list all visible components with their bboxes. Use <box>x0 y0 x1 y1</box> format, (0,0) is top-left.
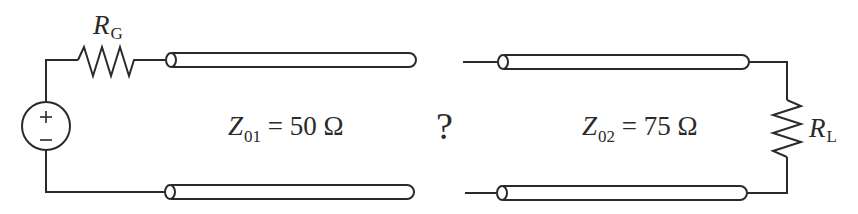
voltage-source-icon <box>22 102 70 150</box>
coax-line-1-bottom <box>165 185 414 199</box>
rl-subscript: L <box>827 127 837 146</box>
rl-symbol: R <box>809 113 826 143</box>
load-resistor-label: RL <box>809 115 837 142</box>
z02-symbol: Z <box>582 111 597 141</box>
wire-right <box>749 62 787 100</box>
rg-subscript: G <box>111 24 123 43</box>
coax-line-2-bottom <box>497 186 747 200</box>
z01-symbol: Z <box>228 111 243 141</box>
rg-symbol: R <box>93 10 110 40</box>
z01-value: 50 Ω <box>290 111 344 141</box>
wire-right-bottom <box>747 157 787 193</box>
generator-resistor-label: RG <box>93 12 123 39</box>
z01-subscript: 01 <box>244 127 261 146</box>
wire-bottom-left <box>46 150 165 192</box>
coax-line-2-top <box>498 55 749 69</box>
unknown-question-mark: ? <box>436 107 453 145</box>
circuit-diagram <box>0 0 858 214</box>
z01-equals: = <box>261 111 290 141</box>
z02-equals: = <box>615 111 644 141</box>
z02-subscript: 02 <box>598 127 615 146</box>
load-resistor-icon <box>773 100 801 157</box>
z02-value: 75 Ω <box>644 111 698 141</box>
wire-top-left <box>46 60 78 102</box>
line2-impedance-label: Z02 = 75 Ω <box>582 113 698 140</box>
generator-resistor-icon <box>78 47 165 76</box>
coax-line-1-top <box>166 53 416 67</box>
line1-impedance-label: Z01 = 50 Ω <box>228 113 344 140</box>
